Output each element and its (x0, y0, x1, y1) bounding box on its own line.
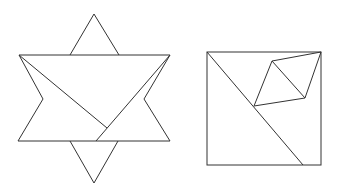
star-left-notch (18, 55, 43, 141)
star-right-notch (144, 55, 170, 141)
square-figure (207, 52, 321, 165)
diagram-canvas (0, 0, 337, 192)
square-diagonal (207, 52, 303, 165)
star-bottom-triangle (70, 141, 118, 183)
star-figure (18, 14, 170, 183)
square-outline (207, 52, 321, 165)
star-diagonal-right (96, 55, 170, 141)
star-top-triangle (70, 14, 119, 55)
rhombus-diagonal (272, 61, 305, 98)
